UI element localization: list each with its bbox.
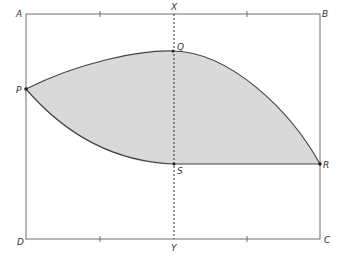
- label-d: D: [17, 237, 24, 247]
- shaded-region: [26, 51, 320, 164]
- point-p: [24, 87, 28, 91]
- point-q: [172, 50, 175, 53]
- label-q: Q: [177, 42, 184, 52]
- label-c: C: [324, 235, 331, 245]
- point-r: [318, 162, 322, 166]
- label-b: B: [322, 9, 328, 19]
- label-s: S: [177, 166, 183, 176]
- label-p: P: [16, 85, 22, 95]
- point-s: [173, 163, 176, 166]
- label-r: R: [323, 160, 329, 170]
- diagram-canvas: A B C D P Q R S X Y: [0, 0, 342, 262]
- label-x: X: [170, 2, 178, 12]
- label-y: Y: [171, 243, 178, 253]
- label-a: A: [15, 9, 22, 19]
